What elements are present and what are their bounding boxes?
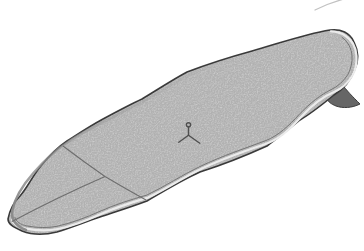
paddleboard-illustration — [0, 0, 364, 251]
canvas — [0, 0, 364, 251]
board-svg — [0, 0, 364, 251]
deck-grain — [0, 0, 364, 251]
stray-corner-curve — [315, 0, 344, 10]
